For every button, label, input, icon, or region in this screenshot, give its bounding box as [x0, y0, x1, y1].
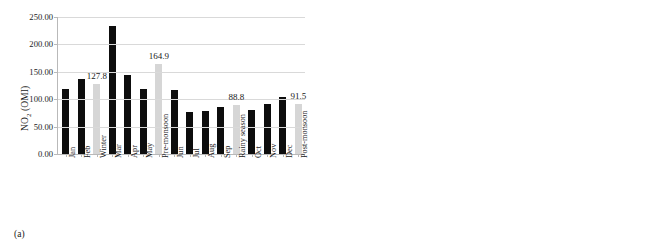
x-axis-label-apr: Apr — [130, 145, 139, 158]
y-axis-tick — [54, 17, 58, 18]
x-axis-label-pre-monsoon: Pre-monsoon — [161, 114, 170, 158]
x-axis-tick — [159, 154, 160, 157]
x-axis-label-oct: Oct — [254, 146, 263, 158]
x-axis-tick — [97, 154, 98, 157]
data-label-rainy-season: 88.8 — [228, 92, 244, 102]
data-label-pre-monsoon: 164.9 — [149, 51, 169, 61]
x-axis-tick — [252, 154, 253, 157]
bar-feb — [78, 79, 85, 154]
x-axis-label-dec: Dec — [285, 145, 294, 158]
gridline — [58, 17, 305, 18]
x-axis-label-feb: Feb — [83, 146, 92, 158]
y-axis-tick-label: 200.00 — [29, 39, 53, 49]
x-axis-label-post-monsoon: Post-monsoon — [300, 111, 309, 158]
y-axis-tick — [54, 72, 58, 73]
gridline — [58, 99, 305, 100]
bar-group-a — [58, 17, 305, 154]
y-axis-tick-label: 50.00 — [34, 122, 53, 132]
y-axis-title-a: NO2 (OMI) — [20, 86, 33, 131]
y-axis-tick — [54, 99, 58, 100]
x-axis-label-winter: Winter — [99, 135, 108, 158]
y-axis-tick — [54, 44, 58, 45]
y-axis-tick-label: 0.00 — [38, 149, 53, 159]
data-label-post-monsoon: 91.5 — [290, 91, 306, 101]
y-axis-tick — [54, 127, 58, 128]
x-axis-label-jun: Jun — [176, 146, 185, 158]
bar-apr — [124, 75, 131, 154]
x-axis-tick — [283, 154, 284, 157]
gridline — [58, 44, 305, 45]
panel-tag-a: (a) — [14, 229, 25, 239]
y-axis-tick-label: 100.00 — [29, 94, 53, 104]
y-axis-tick-label: 250.00 — [29, 12, 53, 22]
x-axis-label-sep: Sep — [223, 146, 232, 158]
chart-panel-a: NO2 (OMI) 0.0050.00100.00150.00200.00250… — [0, 0, 322, 252]
x-axis-label-jul: Jul — [192, 148, 201, 158]
x-axis-tick — [190, 154, 191, 157]
chart-panel-b: NO2 (SCIAMACHY) 0.0020.0040.0060.0080.00… — [322, 0, 645, 252]
y-axis-tick-label: 150.00 — [29, 67, 53, 77]
bar-mar — [109, 26, 116, 154]
x-axis-label-rainy-season: Rainy season — [238, 114, 247, 158]
x-axis-label-jan: Jan — [68, 147, 77, 158]
x-axis-tick — [66, 154, 67, 157]
x-axis-tick — [221, 154, 222, 157]
x-axis-tick — [128, 154, 129, 157]
gridline — [58, 127, 305, 128]
x-axis-label-nov: Nov — [269, 144, 278, 158]
data-label-winter: 127.8 — [87, 71, 107, 81]
figure-two-panel-bar-charts: NO2 (OMI) 0.0050.00100.00150.00200.00250… — [0, 0, 645, 252]
x-axis-label-mar: Mar — [114, 144, 123, 158]
plot-area-a: 0.0050.00100.00150.00200.00250.00127.816… — [57, 17, 305, 154]
x-axis-label-may: May — [145, 143, 154, 158]
x-axis-label-aug: Aug — [207, 144, 216, 158]
y-axis-tick — [54, 154, 58, 155]
